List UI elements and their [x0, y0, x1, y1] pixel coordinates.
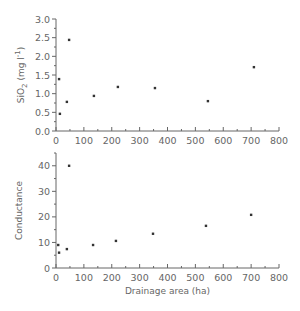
- data-point: [68, 39, 70, 41]
- data-point: [66, 248, 68, 250]
- x-tick-label: 200: [103, 272, 121, 283]
- x-tick-label: 300: [131, 272, 149, 283]
- x-tick-label: 400: [158, 135, 176, 146]
- data-point: [66, 101, 68, 103]
- data-point: [117, 86, 119, 88]
- data-point: [205, 225, 207, 227]
- x-tick-label: 100: [75, 135, 93, 146]
- y-tick-label: 2.0: [35, 51, 50, 62]
- data-point: [207, 100, 209, 102]
- data-point: [154, 87, 156, 89]
- data-point: [68, 165, 70, 167]
- x-tick-label: 700: [242, 135, 260, 146]
- x-tick-label: 800: [270, 272, 288, 283]
- y-tick-label: 3.0: [35, 14, 50, 25]
- y-tick-label: 1.0: [35, 88, 50, 99]
- x-tick-label: 600: [214, 272, 232, 283]
- data-point: [58, 78, 60, 80]
- data-point: [58, 251, 60, 253]
- y-tick-label: 1.5: [35, 70, 50, 81]
- y-tick-label: 10: [38, 237, 50, 248]
- y-axis-title: Conductance: [14, 180, 24, 240]
- x-tick-label: 700: [242, 272, 260, 283]
- y-tick-label: 0: [44, 263, 50, 274]
- data-point: [253, 66, 255, 68]
- data-point: [115, 240, 117, 242]
- x-tick-label: 400: [158, 272, 176, 283]
- x-tick-label: 500: [186, 272, 204, 283]
- y-tick-label: 20: [38, 211, 50, 222]
- data-point: [57, 244, 59, 246]
- x-tick-label: 100: [75, 272, 93, 283]
- x-tick-label: 800: [270, 135, 288, 146]
- data-point: [152, 233, 154, 235]
- y-tick-label: 0.0: [35, 126, 50, 137]
- data-point: [59, 113, 61, 115]
- x-tick-label: 0: [53, 272, 59, 283]
- conductance-plot: 0102030400100200300400500600700800Conduc…: [14, 153, 288, 296]
- data-point: [250, 214, 252, 216]
- x-tick-label: 600: [214, 135, 232, 146]
- y-tick-label: 30: [38, 186, 50, 197]
- y-axis-title: SiO2 (mg l-1): [14, 47, 29, 104]
- y-tick-label: 0.5: [35, 107, 50, 118]
- x-axis-title: Drainage area (ha): [125, 286, 210, 296]
- data-point: [93, 95, 95, 97]
- sio2-plot: 0.00.51.01.52.02.53.00100200300400500600…: [14, 14, 288, 147]
- x-tick-label: 0: [53, 135, 59, 146]
- y-tick-label: 40: [38, 160, 50, 171]
- y-tick-label: 2.5: [35, 32, 50, 43]
- x-tick-label: 300: [131, 135, 149, 146]
- x-tick-label: 500: [186, 135, 204, 146]
- chart-figure: 0.00.51.01.52.02.53.00100200300400500600…: [0, 0, 300, 311]
- x-tick-label: 200: [103, 135, 121, 146]
- data-point: [92, 244, 94, 246]
